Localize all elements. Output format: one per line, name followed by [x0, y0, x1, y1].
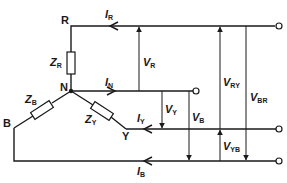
terminal-b[interactable] — [276, 158, 282, 164]
node-label-y: Y — [122, 130, 130, 142]
line-b — [14, 128, 282, 165]
label-iy: IY — [137, 112, 145, 125]
label-ib: IB — [137, 165, 145, 178]
label-zr: ZR — [49, 56, 62, 69]
label-zy: ZY — [84, 113, 97, 126]
label-vry: VRY — [223, 76, 240, 89]
label-vy: VY — [165, 103, 177, 116]
label-vbr: VBR — [250, 91, 267, 104]
label-in: IN — [105, 76, 113, 89]
node-label-n: N — [60, 81, 68, 93]
node-label-b: B — [3, 117, 11, 129]
label-vyb: VYB — [223, 140, 240, 153]
line-n — [71, 87, 199, 95]
line-y — [126, 125, 282, 133]
label-zb: ZB — [24, 93, 37, 106]
node-label-r: R — [61, 14, 69, 26]
label-ir: IR — [105, 8, 113, 21]
impedance-zr — [67, 52, 75, 74]
terminal-n[interactable] — [193, 88, 199, 94]
terminal-r[interactable] — [276, 23, 282, 29]
line-r — [71, 22, 282, 52]
label-vr: VR — [143, 56, 155, 69]
label-vb: VB — [192, 111, 204, 124]
star-load-circuit-diagram: R N Y B ZR ZB ZY IR IN IY IB VR VY VB VR… — [0, 0, 287, 183]
impedance-zy — [91, 102, 114, 121]
terminal-y[interactable] — [276, 126, 282, 132]
